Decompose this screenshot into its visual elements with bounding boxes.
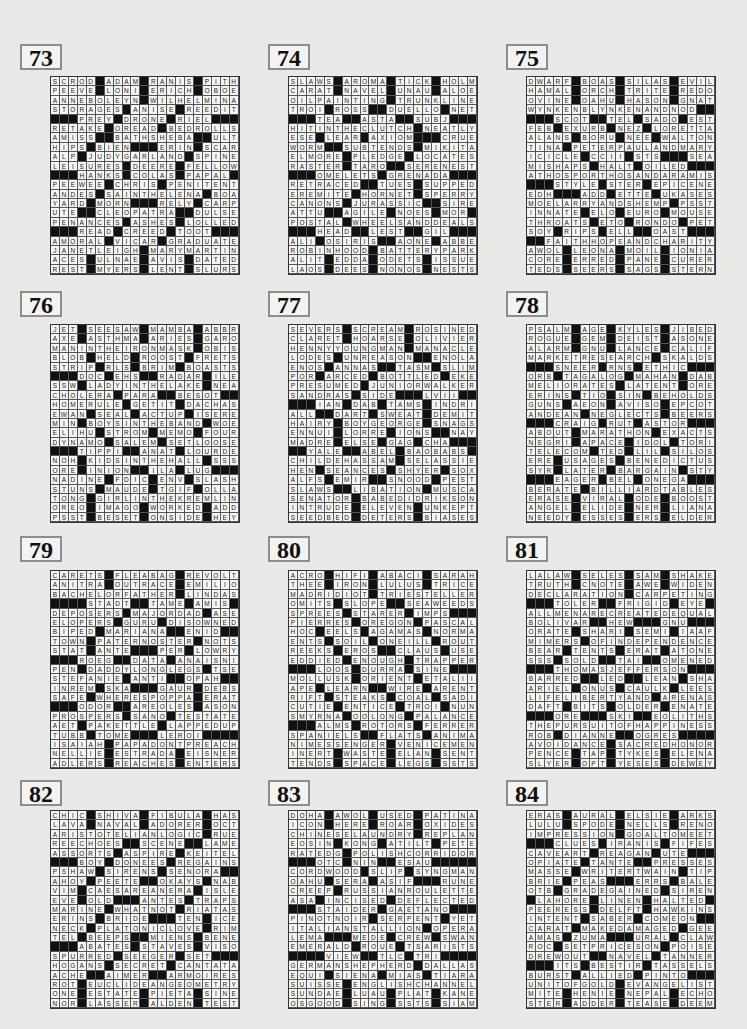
black-square — [378, 475, 387, 484]
letter-cell: T — [387, 485, 396, 494]
letter-cell: G — [96, 105, 105, 114]
letter-cell: F — [194, 353, 203, 362]
letter-cell: R — [369, 325, 378, 334]
letter-cell: T — [123, 989, 132, 998]
letter-cell: N — [545, 143, 554, 152]
letter-cell: C — [423, 438, 432, 447]
letter-cell: N — [441, 731, 450, 740]
letter-cell: U — [581, 933, 590, 942]
black-square — [468, 115, 477, 124]
letter-cell: A — [158, 152, 167, 161]
black-square — [625, 580, 634, 589]
letter-cell: U — [369, 665, 378, 674]
letter-cell: P — [441, 924, 450, 933]
letter-cell: U — [616, 419, 625, 428]
letter-cell: T — [432, 674, 441, 683]
letter-cell: I — [158, 96, 167, 105]
letter-cell: S — [670, 571, 679, 580]
letter-cell: N — [221, 96, 230, 105]
letter-cell: T — [459, 143, 468, 152]
letter-cell: E — [78, 190, 87, 199]
letter-cell: S — [625, 265, 634, 274]
letter-cell: R — [114, 590, 123, 599]
black-square — [87, 494, 96, 503]
letter-cell: L — [536, 759, 545, 768]
black-square — [185, 896, 194, 905]
letter-cell: R — [450, 571, 459, 580]
letter-cell: U — [298, 980, 307, 989]
black-square — [405, 334, 414, 343]
letter-cell: N — [69, 344, 78, 353]
letter-cell: S — [441, 933, 450, 942]
letter-cell: S — [697, 721, 706, 730]
letter-cell: I — [643, 86, 652, 95]
letter-cell: Y — [625, 749, 634, 758]
letter-cell: H — [378, 961, 387, 970]
letter-cell: E — [396, 503, 405, 512]
letter-cell: A — [316, 811, 325, 820]
letter-cell: I — [352, 914, 361, 923]
letter-cell: R — [105, 702, 114, 711]
letter-cell: I — [194, 590, 203, 599]
black-square — [679, 152, 688, 161]
letter-cell: G — [545, 503, 554, 512]
letter-cell: L — [545, 618, 554, 627]
letter-cell: O — [405, 485, 414, 494]
letter-cell: I — [140, 180, 149, 189]
letter-cell: E — [414, 684, 423, 693]
letter-cell: T — [334, 190, 343, 199]
letter-cell: E — [661, 731, 670, 740]
letter-cell: S — [572, 456, 581, 465]
black-square — [545, 961, 554, 970]
letter-cell: L — [599, 896, 608, 905]
letter-cell: I — [361, 858, 370, 867]
letter-cell: S — [554, 180, 563, 189]
letter-cell: L — [298, 152, 307, 161]
black-square — [652, 656, 661, 665]
letter-cell: A — [545, 811, 554, 820]
letter-cell: A — [230, 190, 239, 199]
letter-cell: R — [405, 96, 414, 105]
letter-cell: H — [334, 246, 343, 255]
letter-cell: A — [60, 246, 69, 255]
letter-cell: R — [599, 494, 608, 503]
letter-cell: Y — [590, 199, 599, 208]
letter-cell: O — [459, 86, 468, 95]
letter-cell: E — [369, 86, 378, 95]
letter-cell: S — [405, 513, 414, 522]
letter-cell: I — [607, 942, 616, 951]
letter-cell: E — [697, 325, 706, 334]
letter-cell: O — [221, 419, 230, 428]
letter-cell: E — [96, 933, 105, 942]
black-square — [432, 749, 441, 758]
letter-cell: O — [405, 265, 414, 274]
letter-cell: G — [369, 839, 378, 848]
letter-cell: A — [158, 599, 167, 608]
letter-cell: E — [652, 674, 661, 683]
letter-cell: E — [334, 255, 343, 264]
letter-cell: N — [396, 475, 405, 484]
letter-cell: I — [334, 96, 343, 105]
letter-cell: A — [289, 684, 298, 693]
letter-cell: S — [405, 162, 414, 171]
letter-cell: E — [105, 933, 114, 942]
letter-cell: S — [661, 820, 670, 829]
letter-cell: T — [334, 334, 343, 343]
letter-cell: E — [450, 599, 459, 608]
letter-cell: R — [652, 503, 661, 512]
letter-cell: N — [459, 877, 468, 886]
letter-cell: O — [194, 867, 203, 876]
letter-cell: I — [459, 674, 468, 683]
letter-cell: I — [563, 438, 572, 447]
letter-cell: O — [387, 820, 396, 829]
letter-cell: D — [114, 665, 123, 674]
letter-cell: R — [212, 924, 221, 933]
letter-cell: C — [114, 180, 123, 189]
letter-cell: E — [697, 255, 706, 264]
black-square — [423, 133, 432, 142]
letter-cell: L — [307, 674, 316, 683]
letter-cell: U — [688, 609, 697, 618]
letter-cell: S — [387, 353, 396, 362]
letter-cell: P — [545, 830, 554, 839]
letter-cell: A — [572, 400, 581, 409]
